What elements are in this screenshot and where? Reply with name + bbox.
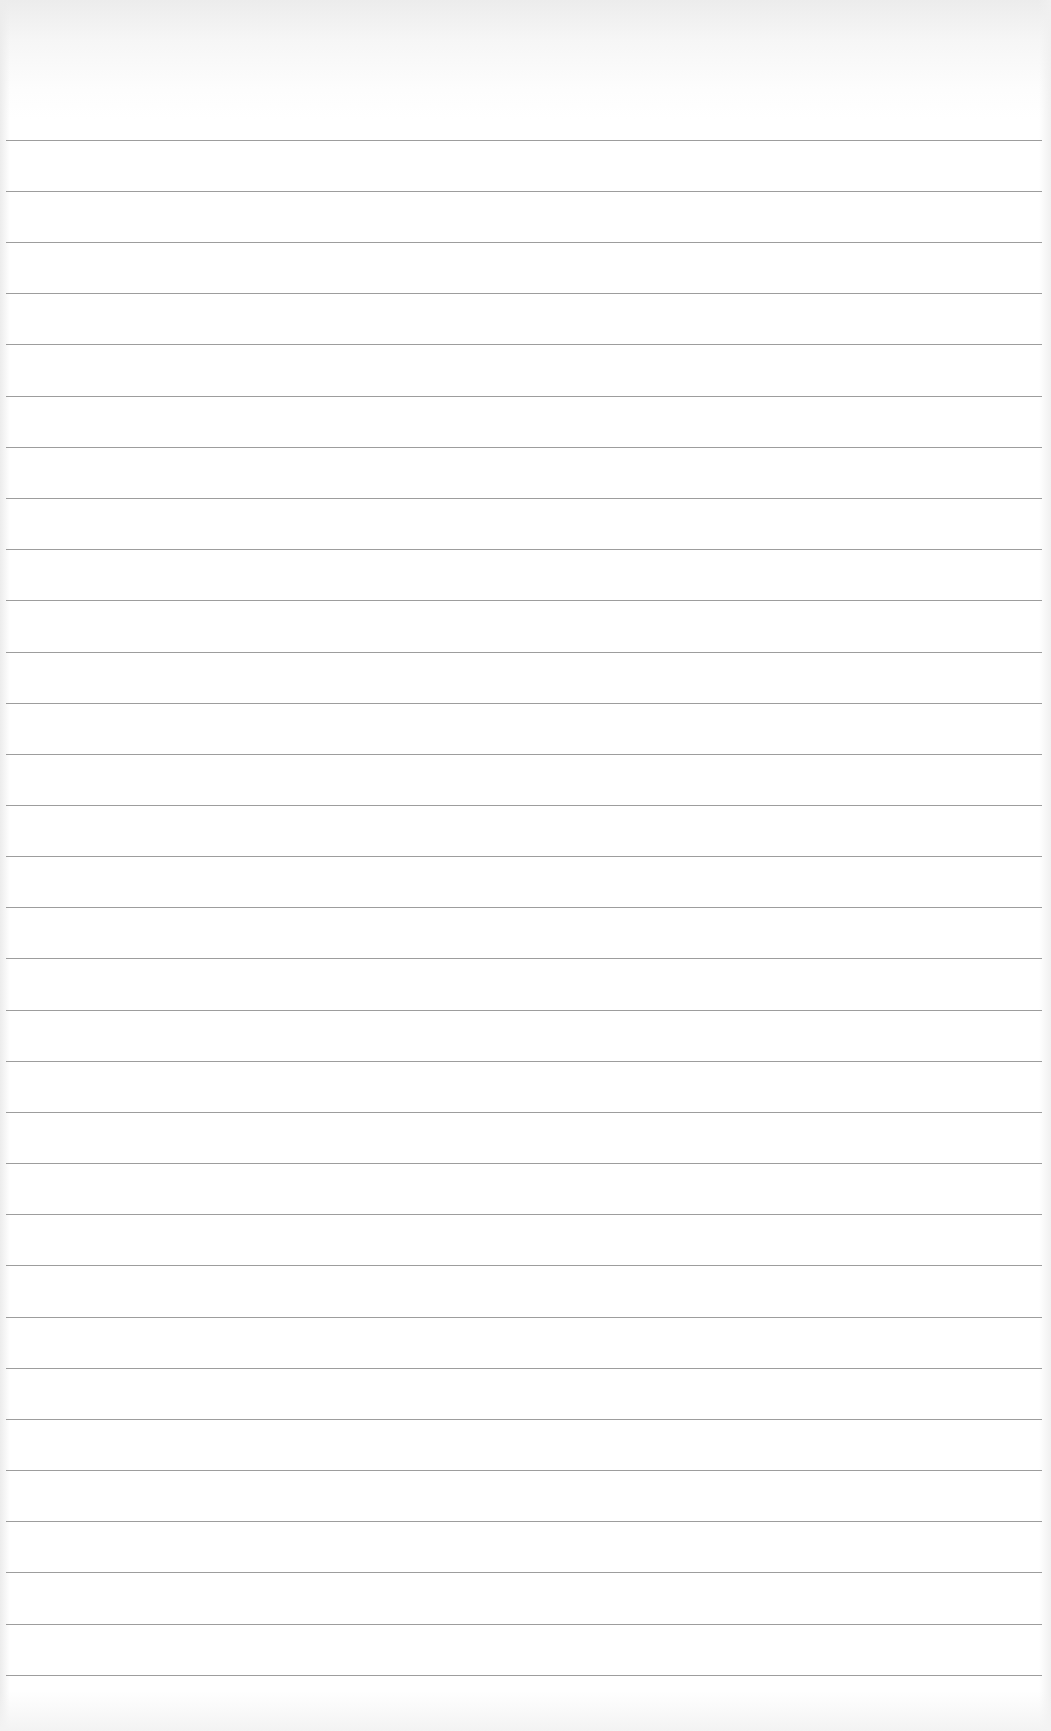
ruled-line xyxy=(6,600,1042,602)
ruled-line xyxy=(6,754,1042,756)
ruled-line xyxy=(6,1112,1042,1114)
ruled-line xyxy=(6,1419,1042,1421)
lined-paper-sheet xyxy=(0,0,1051,1731)
ruled-line xyxy=(6,1010,1042,1012)
ruled-line xyxy=(6,549,1042,551)
ruled-line xyxy=(6,1214,1042,1216)
ruled-line xyxy=(6,1624,1042,1626)
ruled-line xyxy=(6,1265,1042,1267)
ruled-line xyxy=(6,1368,1042,1370)
paper-bottom-edge-shadow xyxy=(0,1691,1051,1731)
ruled-line xyxy=(6,652,1042,654)
ruled-line xyxy=(6,1061,1042,1063)
ruled-line xyxy=(6,344,1042,346)
ruled-line xyxy=(6,242,1042,244)
ruled-line xyxy=(6,498,1042,500)
ruled-line xyxy=(6,856,1042,858)
ruled-line xyxy=(6,805,1042,807)
ruled-line xyxy=(6,1675,1042,1677)
ruled-line xyxy=(6,396,1042,398)
ruled-line xyxy=(6,1572,1042,1574)
ruled-line xyxy=(6,293,1042,295)
ruled-line xyxy=(6,1163,1042,1165)
ruled-line xyxy=(6,447,1042,449)
ruled-line xyxy=(6,1470,1042,1472)
ruled-line xyxy=(6,703,1042,705)
ruled-line xyxy=(6,1317,1042,1319)
ruled-line xyxy=(6,958,1042,960)
ruled-line xyxy=(6,1521,1042,1523)
ruled-line xyxy=(6,191,1042,193)
ruled-line xyxy=(6,907,1042,909)
ruled-line xyxy=(6,140,1042,142)
